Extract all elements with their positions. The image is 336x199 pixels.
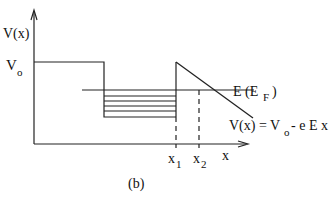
potential-diagram: V(x) V o E (E F ) V(x) = V o - e E x x x…	[0, 0, 336, 199]
svg-text:- e E x: - e E x	[291, 118, 328, 133]
svg-text:1: 1	[176, 158, 182, 170]
potential-formula: V(x) = V	[229, 118, 280, 134]
svg-text:o: o	[17, 66, 23, 78]
svg-text:F: F	[263, 91, 269, 103]
diagram: V(x) V o E (E F ) V(x) = V o - e E x x x…	[0, 0, 336, 199]
x1-label: x	[168, 151, 175, 166]
x-axis-label: x	[222, 148, 229, 163]
svg-text:o: o	[284, 126, 290, 138]
svg-text:): )	[272, 84, 277, 100]
caption: (b)	[128, 176, 145, 192]
x2-label: x	[193, 151, 200, 166]
v0-label: V	[6, 57, 17, 73]
y-axis-label: V(x)	[3, 26, 30, 42]
svg-text:2: 2	[201, 158, 207, 170]
fermi-label: E (E	[233, 84, 258, 100]
